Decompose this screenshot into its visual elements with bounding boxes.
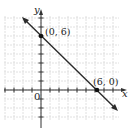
point-0-6 [39,34,44,39]
y-axis-label: y [33,4,40,15]
x-axis-label: x [122,88,128,99]
point-a-label: (0, 6) [45,26,71,37]
graph: y x 0 (0, 6) (6, 0) [0,0,136,132]
point-6-0 [95,88,100,93]
point-b-label: (6, 0) [93,76,119,87]
origin-label: 0 [34,91,40,102]
